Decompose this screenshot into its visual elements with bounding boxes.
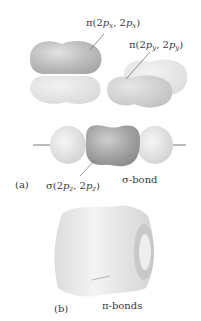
- sigma-leader: [80, 160, 95, 176]
- sigma-orbital: [33, 125, 186, 166]
- pi-y-label: π(2py, 2py): [129, 39, 183, 54]
- panel-a-tag: (a): [15, 179, 29, 190]
- pi-x-leader: [90, 34, 104, 50]
- panel-b-tag: (b): [54, 303, 68, 314]
- sigma-bond-label: σ-bond: [122, 174, 157, 185]
- pi-y-orbital: [107, 60, 187, 108]
- pi-x-label: π(2px, 2px): [86, 17, 140, 32]
- pi-x-orbital: [30, 41, 102, 104]
- pi-bonds-label: π-bonds: [102, 300, 142, 311]
- sigma-orbital-label: σ(2pz, 2pz): [46, 180, 100, 195]
- pi-bonds-cylinder: [55, 206, 154, 297]
